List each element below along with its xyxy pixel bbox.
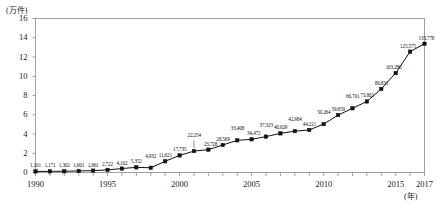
data-point-label: 42,984: [288, 116, 301, 122]
y-axis-tick-label: 12: [10, 52, 28, 62]
data-point-label: 1,601: [73, 162, 84, 168]
data-point-label: 59,659: [332, 106, 345, 112]
data-point-label: 40,629: [274, 124, 287, 130]
data-point-label: 1,302: [59, 162, 70, 168]
data-point-label: 28,569: [216, 136, 229, 142]
x-axis-tick-label: 2005: [237, 179, 267, 189]
x-axis-tick-label: 1995: [93, 179, 123, 189]
y-axis-tick-label: 6: [10, 109, 28, 119]
data-point-label: 1,101: [30, 162, 41, 168]
data-point-label: 50,264: [317, 109, 330, 115]
data-point-label: 37,323: [260, 122, 273, 128]
y-axis-tick-label: 8: [10, 90, 28, 100]
data-point-label: 34,472: [247, 130, 260, 136]
data-point-label: 23,728: [204, 141, 217, 147]
x-axis-tick-label: 2017: [410, 179, 439, 189]
x-axis-tick-label: 1990: [21, 179, 51, 189]
data-point-label: 17,735: [173, 146, 186, 152]
y-axis-tick-label: 10: [10, 71, 28, 81]
data-point-label: 133,778: [419, 35, 435, 41]
y-axis-tick-label: 2: [10, 148, 28, 158]
y-axis-tick-label: 0: [10, 167, 28, 177]
x-axis-tick-label: 2010: [309, 179, 339, 189]
data-point-label: 86,831: [375, 80, 388, 86]
data-point-label: 4,102: [116, 160, 127, 166]
data-point-label: 66,701: [346, 93, 359, 99]
data-point-label: 33,408: [231, 125, 244, 131]
data-point-label: 44,211: [303, 121, 316, 127]
y-axis-tick-label: 4: [10, 129, 28, 139]
data-point-label: 73,802: [360, 92, 373, 98]
data-point-label: 5,352: [131, 158, 142, 164]
y-axis-tick-label: 14: [10, 32, 28, 42]
data-point-label: 11,621: [159, 152, 172, 158]
y-axis-tick-label: 16: [10, 13, 28, 23]
data-point-label: 1,961: [88, 162, 99, 168]
x-axis-tick-label: 2000: [165, 179, 195, 189]
data-point-label: 103,286: [386, 64, 402, 70]
data-point-label: 4,932: [145, 153, 156, 159]
data-point-label: 2,722: [102, 161, 113, 167]
x-axis-tick-label: 2015: [381, 179, 411, 189]
data-point-label: 22,254: [187, 132, 200, 138]
data-point-label: 1,171: [44, 162, 55, 168]
data-point-label: 125,575: [400, 43, 416, 49]
